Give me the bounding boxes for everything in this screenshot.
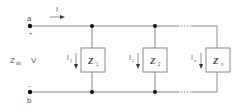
junction-top-2 — [153, 24, 157, 28]
branch-n-current-sub: n — [194, 58, 196, 63]
junction-top-1 — [90, 24, 94, 28]
branch-n-current-label: I — [191, 54, 193, 61]
impedance-zn-sub: n — [221, 62, 224, 67]
terminal-a-polarity: + — [29, 30, 33, 36]
impedance-zn-label: Z — [212, 56, 219, 66]
z-ab-label: Z — [10, 56, 15, 65]
branch-n-arrowhead-icon — [199, 64, 203, 69]
branch-2-current-label: I — [129, 54, 131, 61]
branch-1-current-sub: 1 — [70, 58, 73, 63]
terminal-a-label: a — [27, 14, 32, 23]
terminal-b-polarity: − — [28, 83, 32, 89]
voltage-label: V — [31, 56, 37, 65]
impedance-z2-label: Z — [149, 56, 156, 66]
branch-1-current-label: I — [67, 54, 69, 61]
terminal-b-label: b — [27, 96, 32, 105]
z-ab-subscript: ab — [16, 61, 22, 66]
impedance-z1-label: Z — [87, 56, 94, 66]
total-current-label: I — [56, 6, 58, 13]
junction-bottom-1 — [90, 90, 94, 94]
branch-2-current-sub: 2 — [132, 58, 135, 63]
terminal-b-node — [28, 90, 32, 94]
current-arrowhead-icon — [60, 15, 65, 19]
branch-2-arrowhead-icon — [136, 64, 140, 69]
terminal-a-node — [28, 24, 32, 28]
parallel-circuit-diagram: I a + − b Z ab V I 1 I 2 I n Z 1 Z 2 Z n — [0, 0, 246, 108]
junction-bottom-2 — [153, 90, 157, 94]
branch-1-arrowhead-icon — [74, 64, 78, 69]
impedance-z1-sub: 1 — [96, 62, 99, 67]
impedance-z2-sub: 2 — [158, 62, 161, 67]
